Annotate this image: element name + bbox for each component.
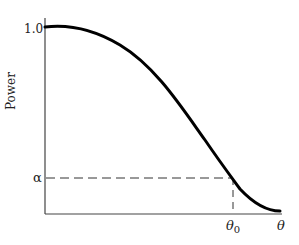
x-tick-theta0-symbol: θ	[226, 218, 234, 233]
x-axis-label-theta: θ	[277, 219, 285, 232]
power-curve	[45, 26, 280, 211]
y-tick-1: 1.0	[24, 23, 43, 35]
x-tick-theta0: θ0	[226, 219, 240, 232]
y-tick-alpha: α	[33, 171, 42, 184]
power-chart	[0, 0, 299, 245]
x-tick-theta0-subscript: 0	[234, 224, 240, 235]
y-axis-title: Power	[4, 72, 18, 110]
